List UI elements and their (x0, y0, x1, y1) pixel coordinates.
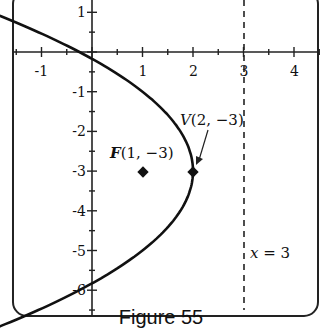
x-tick-label: 1 (139, 63, 148, 79)
x-tick-label: 2 (189, 63, 198, 79)
x-tick-labels: -11234 (35, 63, 300, 79)
y-tick-label: 1 (77, 4, 86, 20)
vertex-arrow (196, 130, 208, 165)
y-axis (87, 0, 97, 316)
focus-label: F(1, −3) (109, 144, 174, 162)
y-tick-label: -5 (72, 243, 86, 259)
parabola-figure: -11234 1-1-2-3-4-5-6 F(1, −3) V(2, −3) x… (0, 0, 322, 330)
vertex-label: V(2, −3) (180, 111, 244, 129)
y-tick-label: -2 (72, 123, 86, 139)
x-tick-label: 4 (290, 63, 299, 79)
parabola-curve (0, 10, 193, 330)
y-tick-label: -1 (72, 84, 86, 100)
x-tick-label: -1 (35, 63, 49, 79)
focus-point-marker (137, 166, 148, 177)
vertex-point-marker (187, 166, 198, 177)
x-axis (13, 47, 319, 57)
y-tick-label: -3 (72, 163, 86, 179)
figure-caption: Figure 55 (0, 306, 322, 329)
directrix-label: x = 3 (250, 244, 290, 262)
y-tick-label: -4 (72, 203, 86, 219)
